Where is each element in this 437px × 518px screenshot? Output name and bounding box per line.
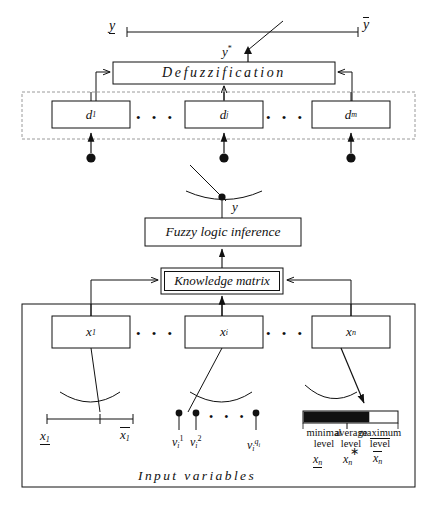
vi2-label: vi2	[190, 434, 202, 450]
xn-scale-pointer	[305, 348, 364, 403]
membership-input-nodes	[86, 133, 355, 163]
v-ellipsis: • • •	[209, 410, 248, 425]
xn-label: xn	[312, 316, 390, 348]
dm-label: dm	[312, 101, 390, 128]
inference-node-label: y	[232, 199, 238, 215]
output-max-label: y	[363, 17, 369, 33]
x1-label: x1	[52, 316, 130, 348]
figure-canvas: y y y* Defuzzification d1 dj dm • • • • …	[0, 0, 437, 518]
d-ellipsis-right: • • •	[266, 110, 306, 126]
output-pointer-label: y*	[222, 44, 232, 60]
d1-label: d1	[52, 101, 130, 128]
inference-switch-symbol	[186, 165, 262, 218]
x1-scale-pointer	[60, 348, 120, 412]
vi1-label: vi1	[172, 434, 184, 450]
output-min-label: y	[109, 18, 115, 34]
x1-max-label: x1	[120, 427, 130, 443]
d-ellipsis-left: • • •	[136, 110, 176, 126]
x-ellipsis-right: • • •	[266, 326, 306, 342]
continuous-interval-scale	[47, 414, 133, 424]
level-minimal-variable: xn	[313, 452, 322, 468]
xi-scale-pointer	[188, 348, 252, 412]
viq-label: viqi	[247, 437, 260, 453]
dj-label: dj	[185, 101, 263, 128]
output-range-scale	[127, 21, 358, 62]
figure-caption	[40, 505, 400, 517]
xi-label: xi	[185, 316, 263, 348]
input-variables-footer: Input variables	[138, 468, 256, 484]
fuzzy-inference-label: Fuzzy logic inference	[145, 218, 301, 246]
defuzzification-label: Defuzzification	[113, 62, 335, 84]
level-average-variable: xn∗	[343, 452, 352, 467]
level-maximum-variable: xn	[373, 451, 382, 466]
x1-min-label: x1	[40, 428, 50, 445]
level-maximum-label: maximum level	[354, 427, 406, 450]
knowledge-matrix-label: Knowledge matrix	[161, 268, 283, 294]
x-ellipsis-left: • • •	[136, 326, 176, 342]
